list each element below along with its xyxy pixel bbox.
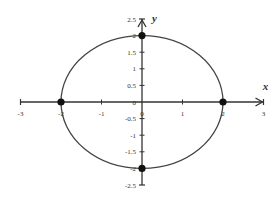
x-tick-label: 1	[181, 110, 185, 118]
y-tick-label: 1	[133, 65, 137, 73]
y-tick-label: -1	[130, 132, 136, 140]
x-tick-label: -3	[18, 110, 24, 118]
y-tick-label: 2.5	[127, 16, 136, 24]
ellipse-plot: -3-2-101232.521.510.50-0.5-1-1.5-2-2.5xy	[0, 0, 279, 198]
x-tick-label: 0	[140, 110, 144, 118]
data-point	[138, 32, 145, 39]
y-tick-label: -2	[130, 165, 136, 173]
y-tick-label: 0	[133, 99, 137, 107]
data-point	[138, 165, 145, 172]
y-tick-label: 2	[133, 32, 137, 40]
y-tick-label: 1.5	[127, 49, 136, 57]
y-tick-label: 0.5	[127, 82, 136, 90]
x-tick-label: 2	[221, 110, 225, 118]
axes	[21, 19, 264, 185]
data-point	[57, 98, 64, 105]
x-tick-label: 3	[262, 110, 266, 118]
x-axis-label: x	[262, 80, 269, 92]
y-tick-label: -1.5	[125, 148, 137, 156]
data-point	[219, 98, 226, 105]
y-tick-label: -0.5	[125, 115, 137, 123]
x-tick-label: -1	[99, 110, 105, 118]
y-axis-label: y	[150, 12, 157, 24]
y-tick-label: -2.5	[125, 182, 137, 190]
x-tick-label: -2	[58, 110, 64, 118]
